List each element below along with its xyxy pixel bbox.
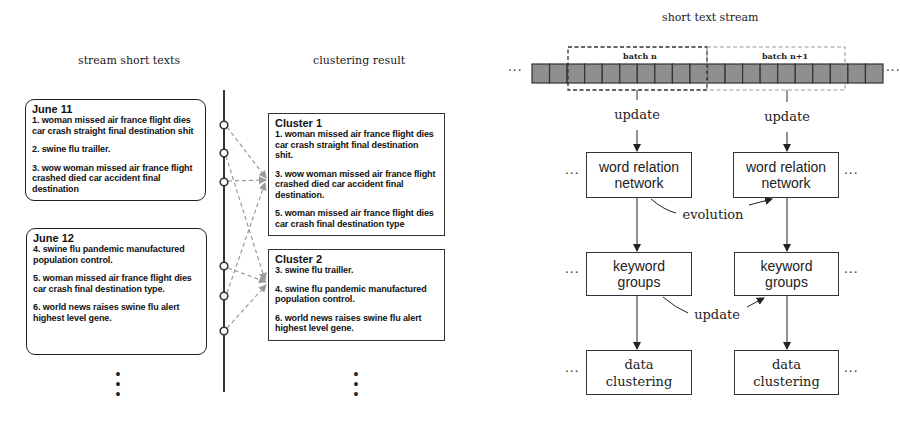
keyword-groups-box-n: keyword groups (586, 252, 692, 296)
ellipsis: ··· (565, 167, 579, 181)
ellipsis: ··· (844, 167, 858, 181)
stream-cell (637, 64, 655, 83)
data-clustering-box-n1: data clustering (734, 350, 839, 395)
stream-cell (550, 64, 568, 83)
stream-cell (795, 64, 813, 83)
timeline-node (220, 292, 228, 300)
box-text: keyword (760, 258, 812, 274)
ellipsis: ··· (565, 266, 579, 280)
stream-cell (532, 64, 550, 83)
box-text: clustering (606, 373, 672, 390)
box-text: data (772, 356, 801, 373)
box-text: network (761, 175, 810, 191)
update-label-left: update (614, 107, 660, 122)
stream-cell (865, 64, 883, 83)
ellipsis: ··· (565, 365, 579, 379)
data-clustering-box-n: data clustering (586, 350, 692, 395)
stream-cell (708, 64, 726, 83)
update-label-right: update (764, 109, 810, 124)
stream-cell (848, 64, 866, 83)
batch-n1-label: batch n+1 (762, 51, 808, 61)
keyword-groups-box-n1: keyword groups (734, 252, 839, 296)
box-text: keyword (613, 258, 665, 274)
stream-cell (778, 64, 796, 83)
ellipsis: ··· (844, 266, 858, 280)
word-relation-network-box-n1: word relation network (733, 152, 839, 198)
batch-n-label: batch n (623, 51, 657, 61)
timeline-node (220, 327, 228, 335)
keyword-update-label: update (694, 307, 740, 322)
stream-cell (672, 64, 690, 83)
stream-cell (760, 64, 778, 83)
stream-cell (602, 64, 620, 83)
box-text: word relation (599, 159, 679, 175)
evolution-label: evolution (683, 207, 744, 222)
stream-ellipsis-left: ··· (508, 64, 522, 78)
timeline-node (220, 121, 228, 129)
short-text-stream-title: short text stream (662, 11, 758, 24)
box-text: data (624, 356, 653, 373)
timeline-node (220, 178, 228, 186)
stream-cell (620, 64, 638, 83)
stream-cell (655, 64, 673, 83)
stream-ellipsis-right: ··· (886, 64, 900, 78)
word-relation-network-box-n: word relation network (586, 152, 692, 198)
timeline-node (220, 149, 228, 157)
stream-cell (585, 64, 603, 83)
stream-cell (567, 64, 585, 83)
box-text: groups (765, 274, 808, 290)
box-text: word relation (746, 159, 826, 175)
box-text: groups (618, 274, 661, 290)
stream-cell (813, 64, 831, 83)
stream-cell (725, 64, 743, 83)
box-text: network (614, 175, 663, 191)
timeline-node (220, 262, 228, 270)
box-text: clustering (753, 373, 819, 390)
stream-cell (690, 64, 708, 83)
ellipsis: ··· (844, 365, 858, 379)
stream-cell (743, 64, 761, 83)
